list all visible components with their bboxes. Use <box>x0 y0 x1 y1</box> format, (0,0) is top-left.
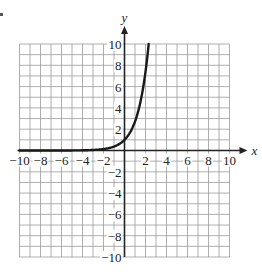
y-axis-arrow-icon <box>121 26 128 34</box>
x-tick-label: −10 <box>9 153 29 168</box>
x-tick-label: 4 <box>163 153 170 168</box>
x-tick-label: −8 <box>34 153 48 168</box>
y-tick-label: −4 <box>108 186 122 201</box>
y-tick-label: −2 <box>108 165 122 180</box>
x-axis-label: x <box>251 143 258 158</box>
x-tick-label: −6 <box>55 153 69 168</box>
y-tick-label: −6 <box>108 207 122 222</box>
y-tick-label: −10 <box>101 250 121 265</box>
y-axis-label: y <box>120 10 128 25</box>
x-tick-label: 10 <box>223 153 236 168</box>
function-graph: −10−8−6−4−2246810−10−8−6−4−2246810 x y <box>0 0 262 280</box>
y-tick-label: 4 <box>115 101 122 116</box>
x-tick-label: 8 <box>205 153 212 168</box>
y-tick-label: 8 <box>115 58 122 73</box>
x-axis-arrow-icon <box>240 147 248 154</box>
y-tick-label: 2 <box>115 122 122 137</box>
y-tick-label: 6 <box>115 80 122 95</box>
y-tick-label: −8 <box>108 229 122 244</box>
axes <box>18 26 248 257</box>
x-tick-label: 2 <box>142 153 149 168</box>
x-tick-label: −4 <box>76 153 90 168</box>
x-tick-label: 6 <box>184 153 191 168</box>
y-tick-label: 10 <box>109 37 122 52</box>
